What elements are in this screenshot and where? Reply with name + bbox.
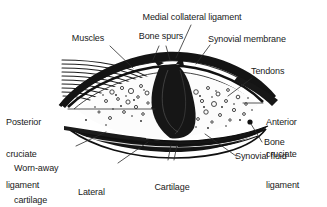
label-anterior-cruciate-ligament-line3: ligament xyxy=(266,180,326,191)
label-posterior-cruciate-ligament-line1: Posterior xyxy=(6,117,68,128)
label-medial-collateral-ligament: Medial collateral ligament xyxy=(124,12,260,23)
label-bone-spurs: Bone spurs xyxy=(128,31,194,42)
label-lateral-collateral-ligament-line1: Lateral xyxy=(78,187,138,198)
knee-joint-diagram: Muscles Bone spurs Medial collateral lig… xyxy=(0,0,327,207)
label-lateral-collateral-ligament: Lateral collateral ligament xyxy=(78,166,138,207)
label-synovial-fluid: Synovial fluid xyxy=(235,151,325,162)
label-tendons: Tendons xyxy=(251,66,311,77)
label-worn-away-cartilage: Worn-away cartilage xyxy=(14,142,78,207)
label-cartilage-fragments-in-fluid: Cartilage fragments in fluid xyxy=(138,161,206,207)
label-synovial-membrane: Synovial membrane xyxy=(208,34,326,45)
label-muscles: Muscles xyxy=(62,33,114,44)
bone-particle-marker xyxy=(247,119,252,124)
label-anterior-cruciate-ligament-line1: Anterior xyxy=(266,117,326,128)
label-bone: Bone xyxy=(264,137,312,148)
label-worn-away-cartilage-line2: cartilage xyxy=(14,195,78,206)
label-worn-away-cartilage-line1: Worn-away xyxy=(14,163,78,174)
label-cartilage-fragments-line1: Cartilage xyxy=(138,182,206,193)
